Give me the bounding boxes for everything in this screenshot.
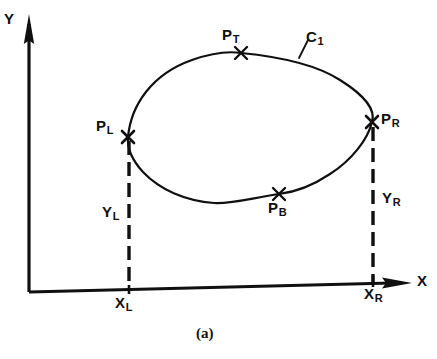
figure-caption: (a) <box>196 325 214 342</box>
curve-label: C1 <box>306 29 324 47</box>
y-axis-label: Y <box>4 11 14 27</box>
figure-container: Y X C1 PT PL PR PB YL YR XL XR (a) <box>0 0 437 359</box>
point-label-p-left: PL <box>96 118 114 136</box>
y-axis-arrowhead <box>24 14 34 44</box>
extent-label-x-left: XL <box>115 295 133 313</box>
extent-label-y-right: YR <box>382 190 401 208</box>
point-label-p-bottom: PB <box>268 200 287 218</box>
contour-curve <box>128 52 373 203</box>
point-label-p-top: PT <box>222 27 240 45</box>
extent-label-y-left: YL <box>102 204 120 222</box>
x-axis-label: X <box>417 273 427 289</box>
diagram-canvas <box>0 0 437 359</box>
x-axis-arrowhead <box>382 277 412 288</box>
x-axis-line <box>29 283 392 292</box>
point-label-p-right: PR <box>381 111 400 129</box>
extent-label-x-right: XR <box>364 286 383 304</box>
